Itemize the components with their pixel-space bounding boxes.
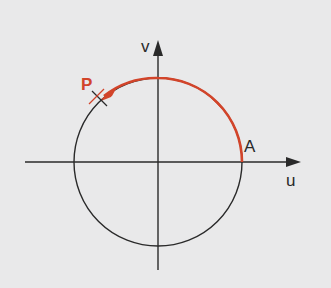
u-axis-label: u: [286, 172, 295, 189]
diagram-graphic: [0, 0, 331, 288]
point-a-label: A: [244, 138, 255, 155]
arc-a-to-p: [104, 78, 242, 162]
v-axis-arrow-icon: [153, 40, 163, 56]
u-axis-arrow-icon: [286, 157, 301, 167]
v-axis-label: v: [141, 38, 150, 55]
tick-mark-45: [211, 97, 222, 108]
unit-circle-diagram: v u A P: [0, 0, 331, 288]
point-p-label: P: [81, 76, 92, 93]
